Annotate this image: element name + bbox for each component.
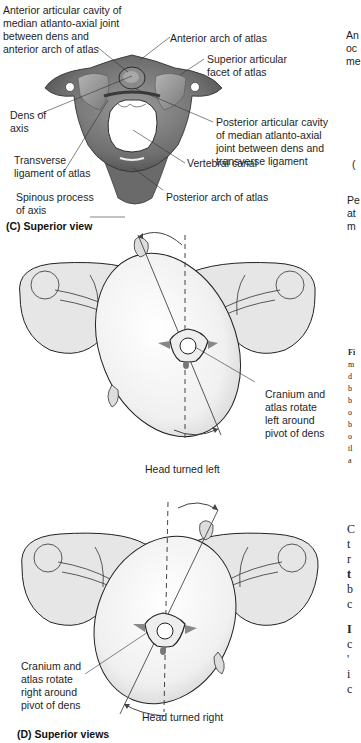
- edge-line: o: [348, 407, 355, 419]
- label-line: Anterior articular cavity of: [3, 4, 121, 17]
- edge-line: c: [347, 682, 355, 697]
- edge-line: o: [348, 431, 355, 443]
- edge-line: I: [347, 622, 355, 637]
- label-vertebral-canal: Vertebral canal: [187, 157, 257, 170]
- label-line: of median atlanto-axial: [216, 129, 328, 142]
- edge-line: at: [347, 207, 360, 220]
- label-line: Cranium and: [21, 660, 81, 673]
- edge-line: me: [346, 55, 361, 68]
- edge-line: m: [347, 220, 360, 233]
- edge-line: c: [347, 597, 355, 612]
- label-anterior-arch: Anterior arch of atlas: [170, 32, 267, 45]
- edge-line: m: [348, 359, 355, 371]
- label-line: joint between dens and: [216, 142, 328, 155]
- edge-line: tl: [348, 443, 355, 455]
- edge-text-top: An oc me: [346, 29, 361, 68]
- label-line: pivot of dens: [21, 699, 81, 712]
- label-line: facet of atlas: [207, 66, 287, 79]
- caption-panel-d: (D) Superior views: [17, 728, 109, 740]
- label-superior-articular-facet: Superior articular facet of atlas: [207, 53, 287, 79]
- edge-line: b: [348, 395, 355, 407]
- edge-line: a: [348, 455, 355, 467]
- edge-line: r: [347, 552, 355, 567]
- edge-line: An: [346, 29, 361, 42]
- label-head-turned-left: Head turned left: [145, 463, 220, 476]
- edge-text-figure-caption: Fi m d b b o b o tl a: [348, 347, 355, 467]
- label-line: Cranium and: [265, 388, 325, 401]
- edge-line: t: [347, 567, 355, 582]
- label-line: atlas rotate: [21, 673, 81, 686]
- label-line: axis: [10, 122, 46, 135]
- edge-text-mid-a: (: [352, 158, 356, 171]
- label-line: Posterior articular cavity: [216, 116, 328, 129]
- label-dens-of-axis: Dens of axis: [10, 109, 46, 135]
- edge-line: c: [347, 637, 355, 652]
- label-transverse-ligament: Transverse ligament of atlas: [14, 154, 90, 180]
- edge-line: oc: [346, 42, 361, 55]
- label-posterior-arch: Posterior arch of atlas: [166, 191, 268, 204]
- label-line: Dens of: [10, 109, 46, 122]
- edge-text-body: C t r t b c I c ' i c: [347, 522, 355, 697]
- edge-line: C: [347, 522, 355, 537]
- label-line: right around: [21, 686, 81, 699]
- label-line: left around: [265, 414, 325, 427]
- edge-line: d: [348, 371, 355, 383]
- label-line: of axis: [16, 204, 94, 217]
- edge-line: b: [348, 383, 355, 395]
- label-spinous-process: Spinous process of axis: [16, 191, 94, 217]
- label-line: Superior articular: [207, 53, 287, 66]
- label-line: ligament of atlas: [14, 167, 90, 180]
- edge-line: Pe: [347, 194, 360, 207]
- label-line: median atlanto-axial joint: [3, 17, 121, 30]
- edge-line: ': [347, 652, 355, 667]
- label-line: between dens and: [3, 30, 121, 43]
- edge-line: b: [347, 582, 355, 597]
- label-anterior-articular-cavity: Anterior articular cavity of median atla…: [3, 4, 121, 56]
- label-line: Spinous process: [16, 191, 94, 204]
- head-turned-left-illustration: [0, 235, 356, 485]
- edge-line: i: [347, 667, 355, 682]
- label-line: Transverse: [14, 154, 90, 167]
- label-line: pivot of dens: [265, 427, 325, 440]
- label-line: anterior arch of atlas: [3, 43, 121, 56]
- label-rotation-right: Cranium and atlas rotate right around pi…: [21, 660, 81, 712]
- edge-line: b: [348, 419, 355, 431]
- caption-panel-c: (C) Superior view: [6, 220, 92, 232]
- edge-line: Fi: [348, 347, 355, 359]
- label-rotation-left: Cranium and atlas rotate left around piv…: [265, 388, 325, 440]
- label-line: atlas rotate: [265, 401, 325, 414]
- edge-line: t: [347, 537, 355, 552]
- edge-text-mid-b: Pe at m: [347, 194, 360, 233]
- label-head-turned-right: Head turned right: [142, 711, 223, 724]
